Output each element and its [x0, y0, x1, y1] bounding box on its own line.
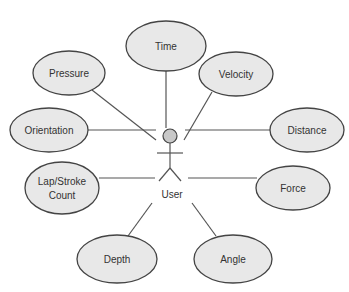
use-case-label: Orientation: [25, 125, 74, 136]
use-case-velocity[interactable]: Velocity: [199, 52, 273, 96]
use-case-force[interactable]: Force: [256, 166, 330, 210]
actor-head: [163, 129, 177, 143]
use-case-angle[interactable]: Angle: [194, 235, 272, 283]
use-case-lap-stroke-count[interactable]: Lap/Stroke Count: [25, 162, 99, 214]
connector-angle: [192, 203, 216, 236]
use-case-time[interactable]: Time: [126, 21, 206, 71]
use-case-label: Force: [280, 183, 306, 194]
connector-pressure: [92, 90, 156, 140]
use-case-label: Depth: [104, 254, 131, 265]
use-case-label-line1: Lap/Stroke: [38, 176, 87, 187]
use-case-label: Pressure: [49, 68, 89, 79]
actor-user[interactable]: User: [157, 129, 183, 200]
use-case-orientation[interactable]: Orientation: [10, 108, 88, 152]
use-case-depth[interactable]: Depth: [77, 235, 157, 283]
connector-velocity: [184, 92, 212, 140]
connector-depth: [128, 203, 152, 236]
use-case-label-line2: Count: [49, 190, 76, 201]
use-case-label: Velocity: [219, 69, 253, 80]
use-case-label: Angle: [220, 254, 246, 265]
actor-right-leg: [170, 168, 181, 181]
use-case-distance[interactable]: Distance: [270, 108, 344, 152]
use-case-diagram: User Time Pressure Velocity Orientation …: [0, 0, 349, 292]
actor-left-leg: [159, 168, 170, 181]
actor-label: User: [161, 189, 183, 200]
use-case-pressure[interactable]: Pressure: [33, 51, 105, 95]
use-case-label: Distance: [288, 125, 327, 136]
use-case-label: Time: [155, 41, 177, 52]
